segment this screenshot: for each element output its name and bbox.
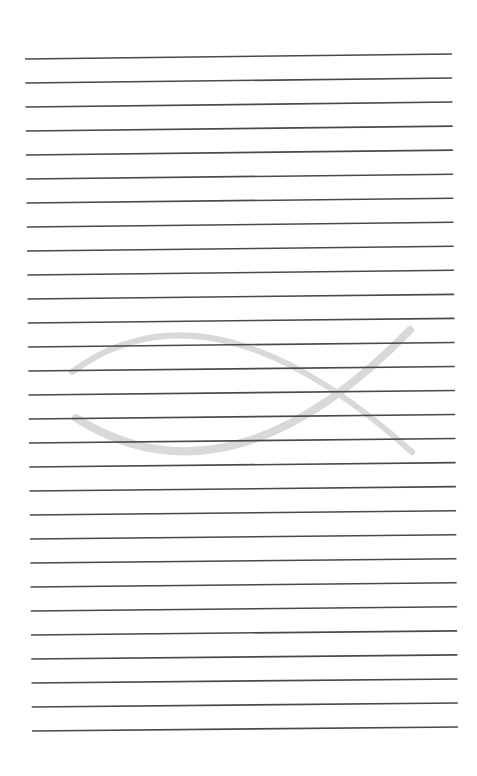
ruled-line	[31, 583, 457, 587]
ruled-line	[29, 463, 455, 467]
ruled-line	[28, 318, 455, 323]
ruled-line	[27, 246, 454, 251]
ruled-line	[27, 270, 454, 275]
paper-sheet	[0, 0, 477, 776]
ruled-line	[26, 102, 453, 107]
ruled-lines	[25, 54, 458, 731]
ruled-line	[25, 78, 452, 83]
ruled-line	[26, 126, 453, 131]
ruled-line	[32, 727, 458, 731]
ruled-line	[32, 679, 458, 683]
ruled-line	[28, 294, 455, 299]
ruled-line	[29, 415, 455, 419]
ruled-line	[28, 366, 455, 371]
ruled-line	[32, 703, 458, 707]
ruled-line	[29, 391, 456, 396]
ruled-line	[31, 655, 457, 659]
ruled-line	[27, 198, 454, 203]
ruled-line	[30, 487, 456, 491]
ruled-line	[30, 511, 456, 515]
ruled-line	[31, 607, 457, 611]
ruled-line	[26, 174, 453, 179]
ruled-line	[30, 535, 456, 539]
ruled-line	[31, 631, 457, 635]
lined-paper-page	[0, 0, 477, 776]
ruled-line	[30, 559, 456, 563]
ruled-line	[25, 54, 452, 59]
ruled-line	[26, 150, 453, 155]
ruled-line	[27, 222, 454, 227]
